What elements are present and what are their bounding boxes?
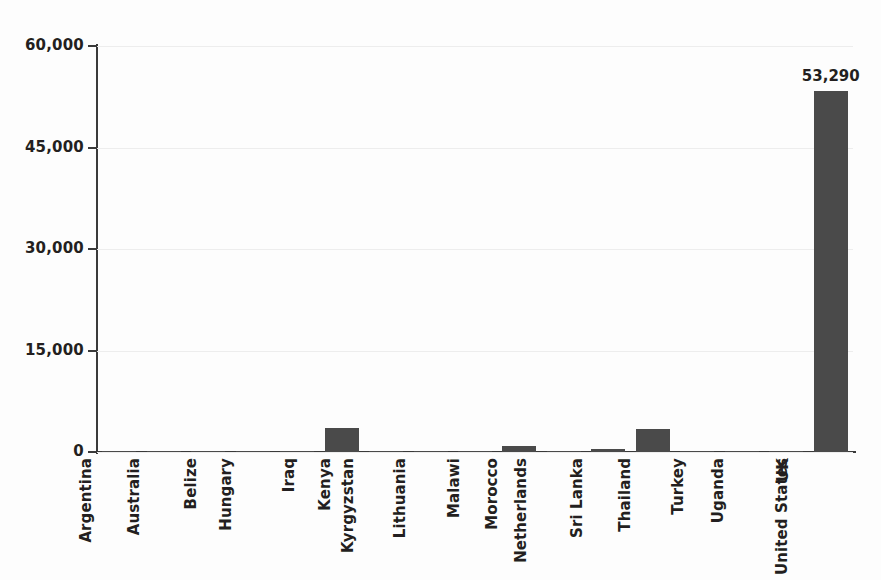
- bar[interactable]: [147, 451, 181, 453]
- bar-slot: [453, 46, 497, 452]
- bar[interactable]: [414, 451, 448, 453]
- x-axis-category-label: Turkey: [669, 458, 687, 515]
- bar-slot: [275, 46, 319, 452]
- bar[interactable]: [769, 451, 803, 453]
- bar-slot: [586, 46, 630, 452]
- bar-slot: [364, 46, 408, 452]
- bar-slot: [720, 46, 764, 452]
- bar-slot: 53,290: [809, 46, 853, 452]
- category-label-slot: Hungary: [230, 456, 274, 580]
- bar-slot: [542, 46, 586, 452]
- x-axis-category-label: Kyrgyzstan: [339, 458, 357, 553]
- bar-slot: [497, 46, 541, 452]
- bar-slot: [141, 46, 185, 452]
- bar[interactable]: [636, 429, 670, 452]
- bar[interactable]: [102, 451, 136, 453]
- bar[interactable]: [325, 428, 359, 452]
- x-axis-category-label: Malawi: [445, 458, 463, 518]
- y-axis-tick-mark: [88, 451, 97, 453]
- x-axis-category-label: Uganda: [709, 458, 727, 523]
- x-axis-category-label: Thailand: [616, 458, 634, 532]
- y-axis-tick-labels: 60,00045,00030,00015,0000: [0, 0, 84, 580]
- bar-slot: [764, 46, 808, 452]
- x-axis-category-label: Hungary: [216, 458, 234, 531]
- bar-slot: [97, 46, 141, 452]
- y-axis-tick-mark: [88, 45, 97, 47]
- y-axis-tick-label: 30,000: [25, 239, 84, 257]
- bar[interactable]: [814, 91, 848, 452]
- bar[interactable]: [591, 449, 625, 452]
- bar[interactable]: [458, 451, 492, 453]
- bar-slot: [319, 46, 363, 452]
- bar-slot: [186, 46, 230, 452]
- y-axis-tick-label: 45,000: [25, 138, 84, 156]
- x-axis-category-labels: ArgentinaAustraliaBelizeHungaryIraqKenya…: [97, 456, 853, 580]
- y-axis-tick-mark: [88, 248, 97, 250]
- gridline: [97, 452, 853, 453]
- chart-page: 60,00045,00030,00015,0000 53,290 Argenti…: [0, 0, 881, 580]
- category-label-slot: Australia: [141, 456, 185, 580]
- category-label-slot: Uganda: [720, 456, 764, 580]
- bar[interactable]: [280, 451, 314, 453]
- y-axis-tick-mark: [88, 350, 97, 352]
- bar[interactable]: [502, 446, 536, 452]
- bar-slot: [675, 46, 719, 452]
- bar-slot: [230, 46, 274, 452]
- x-axis-category-label: Lithuania: [390, 458, 408, 538]
- bar-slot: [631, 46, 675, 452]
- category-label-slot: Iraq: [275, 456, 319, 580]
- bar[interactable]: [547, 451, 581, 453]
- x-axis-category-label: United States: [772, 458, 790, 575]
- x-axis-category-label: Belize: [182, 458, 200, 509]
- category-label-slot: United States: [809, 456, 853, 580]
- x-axis-category-label: Australia: [125, 458, 143, 535]
- bar[interactable]: [236, 451, 270, 453]
- bar[interactable]: [191, 451, 225, 453]
- x-axis-category-label: Morocco: [484, 458, 502, 530]
- bar-value-label: 53,290: [802, 67, 860, 85]
- bar[interactable]: [680, 451, 714, 453]
- x-axis-category-label: Netherlands: [512, 458, 530, 563]
- y-axis-tick-mark: [88, 147, 97, 149]
- y-axis-tick-label: 60,000: [25, 36, 84, 54]
- x-axis-category-label: Sri Lanka: [568, 458, 586, 538]
- x-axis-category-label: Iraq: [280, 458, 298, 492]
- y-axis-tick-label: 15,000: [25, 341, 84, 359]
- x-axis-category-label: Argentina: [77, 458, 95, 543]
- bar[interactable]: [369, 451, 403, 453]
- bar-slot: [408, 46, 452, 452]
- plot-area: 53,290: [97, 46, 853, 452]
- x-axis-category-label: Kenya: [315, 458, 333, 511]
- bar[interactable]: [725, 451, 759, 453]
